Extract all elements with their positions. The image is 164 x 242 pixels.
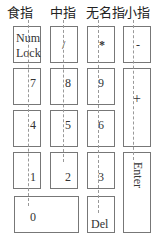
key-0-label: 0 [30,211,36,223]
key-7: 7 [13,68,41,105]
key-1-label: 1 [30,171,36,183]
key-del: Del [87,196,115,233]
finger-guide-pinky [133,20,134,160]
key-multiply: * [87,26,115,63]
key-8: 8 [50,68,78,105]
key-plus: + [123,68,151,147]
key-4: 4 [13,110,41,147]
finger-label-index: 食指 [7,2,33,21]
key-6: 6 [87,110,115,147]
key-multiply-label: * [99,39,105,51]
key-enter-label: Enter [132,159,144,191]
key-plus-label: + [133,92,141,106]
finger-label-pinky: 小指 [124,2,150,21]
finger-label-middle: 中指 [50,2,76,21]
key-5: 5 [50,110,78,147]
key-2-label: 2 [65,171,71,183]
key-numlock: Num Lock [13,26,41,63]
key-3: 3 [87,152,115,189]
key-8-label: 8 [65,77,71,89]
key-5-label: 5 [65,119,71,131]
key-2: 2 [50,152,78,189]
key-minus: - [123,26,151,63]
key-enter: Enter [123,152,151,233]
key-9: 9 [87,68,115,105]
key-7-label: 7 [30,77,36,89]
finger-guide-middle [63,20,64,162]
key-del-label: Del [91,218,108,230]
key-minus-label: - [136,39,140,51]
key-1: 1 [13,152,41,189]
key-0: 0 [14,196,79,233]
key-divide: / [50,26,78,63]
finger-guide-ring [98,20,99,213]
key-4-label: 4 [30,119,36,131]
finger-guide-index [28,20,29,206]
finger-label-ring: 无名指 [86,2,125,21]
